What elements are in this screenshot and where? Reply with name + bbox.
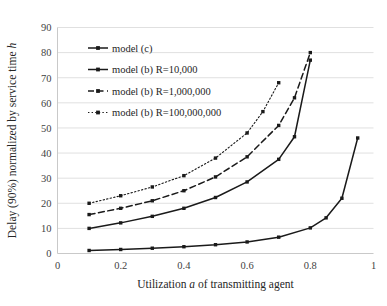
x-tick-label: 0.6 [241,260,254,271]
data-point-marker [182,207,185,210]
data-point-marker [309,226,312,229]
data-point-marker [182,174,185,177]
legend-marker-swatch [96,89,100,93]
x-tick-label: 1 [371,260,376,271]
series-3 [87,81,280,205]
data-point-marker [309,58,312,61]
data-point-marker [87,227,90,230]
data-point-marker [277,124,280,127]
data-point-marker [119,248,122,251]
data-point-marker [151,199,154,202]
x-tick-label: 0.4 [177,260,191,271]
data-point-marker [261,110,264,113]
legend-label: model (c) [112,43,153,55]
series-line [89,83,279,204]
legend-marker-swatch [96,111,100,115]
data-point-marker [119,221,122,224]
data-point-marker [277,158,280,161]
data-point-marker [309,51,312,54]
data-point-marker [182,189,185,192]
data-point-marker [277,81,280,84]
y-tick-label: 60 [41,98,52,109]
data-point-marker [87,249,90,252]
y-tick-label: 80 [41,47,52,58]
y-tick-label: 10 [41,223,52,234]
data-point-marker [245,240,248,243]
legend-label: model (b) R=1,000,000 [112,86,211,98]
legend-label: model (b) R=10,000 [112,64,198,76]
data-point-marker [214,243,217,246]
legend-marker-swatch [96,46,100,50]
legend-label: model (b) R=100,000,000 [112,107,221,119]
legend-marker-swatch [96,68,100,72]
data-point-marker [119,194,122,197]
x-tick-label: 0.8 [304,260,317,271]
data-point-marker [182,245,185,248]
series-layer [87,51,359,252]
data-point-marker [356,136,359,139]
legend-item[interactable]: model (b) R=1,000,000 [88,86,211,98]
data-point-marker [293,135,296,138]
legend-item[interactable]: model (b) R=100,000,000 [88,107,221,119]
data-point-marker [119,207,122,210]
y-axis-tick-labels: 0102030405060708090 [41,22,52,259]
data-point-marker [245,131,248,134]
x-axis-title: Utilization a of transmitting agent [137,278,294,291]
series-line [89,53,310,215]
data-point-marker [245,155,248,158]
data-point-marker [214,175,217,178]
y-tick-label: 30 [41,173,52,184]
data-point-marker [151,215,154,218]
y-tick-label: 20 [41,198,52,209]
y-tick-label: 0 [46,248,51,259]
data-point-marker [340,197,343,200]
x-axis-tick-labels: 00.20.40.60.81 [55,260,376,271]
data-point-marker [151,185,154,188]
data-point-marker [151,247,154,250]
data-point-marker [87,213,90,216]
y-tick-label: 40 [41,148,52,159]
data-point-marker [87,202,90,205]
y-tick-label: 90 [41,22,52,33]
x-tick-label: 0.2 [114,260,127,271]
series-2 [87,51,312,216]
data-point-marker [293,96,296,99]
y-axis-title: Delay (90%) normalized by service time h [6,43,19,239]
y-tick-label: 50 [41,123,52,134]
x-tick-label: 0 [55,260,60,271]
data-point-marker [324,216,327,219]
delay-vs-utilization-line-chart: 010203040506070809000.20.40.60.81Utiliza… [0,0,387,306]
data-point-marker [214,156,217,159]
legend: model (c)model (b) R=10,000model (b) R=1… [88,43,221,120]
axes [58,28,374,254]
legend-item[interactable]: model (b) R=10,000 [88,64,198,76]
chart-container: 010203040506070809000.20.40.60.81Utiliza… [0,0,387,306]
data-point-marker [214,196,217,199]
data-point-marker [245,180,248,183]
y-tick-label: 70 [41,73,52,84]
data-point-marker [277,235,280,238]
